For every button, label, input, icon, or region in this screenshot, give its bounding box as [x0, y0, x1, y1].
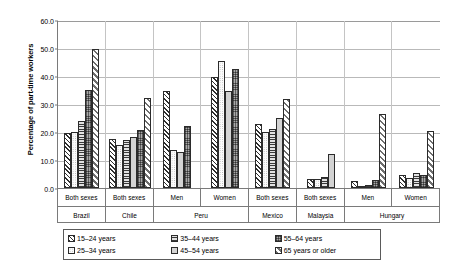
bar — [137, 130, 144, 188]
bar — [130, 137, 137, 188]
bar — [218, 61, 225, 188]
legend-swatch — [68, 247, 75, 254]
bar-group-bars — [64, 21, 99, 188]
legend-label: 15–24 years — [77, 235, 116, 242]
bar — [85, 90, 92, 188]
legend-item: 35–44 years — [171, 232, 272, 244]
bar — [184, 126, 191, 188]
chart-container: Percentage of part-time workers 0.010.02… — [0, 0, 449, 269]
bar-group — [345, 21, 393, 188]
bar — [255, 124, 262, 188]
y-tick-label: 60.0 — [40, 18, 54, 25]
category-label: Women — [201, 189, 249, 206]
legend-swatch — [171, 235, 178, 242]
y-tick-label: 10.0 — [40, 158, 54, 165]
bar — [358, 186, 365, 188]
country-label: Chile — [106, 206, 154, 223]
bar — [379, 114, 386, 188]
bar — [163, 91, 170, 188]
bar-group-bars — [399, 21, 434, 188]
y-tick-label: 0.0 — [44, 186, 54, 193]
bar-group-bars — [109, 21, 151, 188]
bar — [262, 132, 269, 188]
legend-item: 25–34 years — [68, 244, 169, 256]
bar — [314, 179, 321, 188]
bar — [413, 173, 420, 188]
legend-label: 55–64 years — [284, 235, 323, 242]
bar — [92, 49, 99, 188]
legend-label: 65 years or older — [284, 247, 337, 254]
legend-swatch — [171, 247, 178, 254]
legend-swatch — [68, 235, 75, 242]
bar-group-bars — [163, 21, 191, 188]
bar — [321, 177, 328, 188]
bar-groups — [58, 21, 440, 188]
category-label: Both sexes — [57, 189, 106, 206]
legend-item: 15–24 years — [68, 232, 169, 244]
bar — [78, 121, 85, 188]
category-label-row: Both sexesBoth sexesMenWomenBoth sexesBo… — [57, 189, 440, 206]
bar — [328, 154, 335, 188]
bar-group — [392, 21, 440, 188]
bar — [283, 99, 290, 188]
plot-area: 0.010.020.030.040.050.060.0 — [57, 21, 440, 189]
category-label: Both sexes — [297, 189, 345, 206]
bar — [399, 175, 406, 188]
bar-group — [201, 21, 249, 188]
country-label: Brazil — [57, 206, 106, 223]
legend-item: 45–54 years — [171, 244, 272, 256]
category-axis: Both sexesBoth sexesMenWomenBoth sexesBo… — [57, 189, 440, 223]
country-label: Peru — [154, 206, 249, 223]
bar-group-bars — [211, 21, 239, 188]
legend-label: 25–34 years — [77, 247, 116, 254]
category-label: Both sexes — [106, 189, 154, 206]
country-label: Malaysia — [297, 206, 345, 223]
bar — [170, 150, 177, 188]
category-label: Men — [154, 189, 202, 206]
chart-legend: 15–24 years35–44 years55–64 years25–34 y… — [63, 229, 381, 260]
y-tick-label: 40.0 — [40, 74, 54, 81]
bar — [427, 131, 434, 188]
category-label: Men — [345, 189, 393, 206]
bar-group-bars — [307, 21, 335, 188]
legend-label: 35–44 years — [180, 235, 219, 242]
bar-group-bars — [255, 21, 290, 188]
bar — [420, 175, 427, 188]
bar — [307, 179, 314, 188]
bar — [276, 118, 283, 188]
bar-group — [106, 21, 154, 188]
legend-swatch — [275, 247, 282, 254]
category-label: Women — [392, 189, 440, 206]
bar — [406, 178, 413, 188]
bar — [365, 185, 372, 188]
y-tick-label: 30.0 — [40, 102, 54, 109]
bar-group — [58, 21, 106, 188]
bar — [269, 129, 276, 188]
legend-swatch — [275, 235, 282, 242]
bar — [116, 145, 123, 188]
country-label-row: BrazilChilePeruMexicoMalaysiaHungary — [57, 206, 440, 223]
bar — [211, 77, 218, 188]
legend-item: 65 years or older — [275, 244, 376, 256]
y-axis-title: Percentage of part-time workers — [26, 7, 35, 192]
bar — [177, 152, 184, 188]
bar-group — [249, 21, 297, 188]
bar-group-bars — [351, 21, 386, 188]
bar — [232, 69, 239, 188]
legend-item: 55–64 years — [275, 232, 376, 244]
bar — [144, 98, 151, 188]
bar — [123, 140, 130, 188]
country-label: Mexico — [249, 206, 297, 223]
bar-group — [297, 21, 345, 188]
bar — [71, 132, 78, 188]
y-tick-label: 50.0 — [40, 46, 54, 53]
bar — [109, 139, 116, 188]
y-tick-label: 20.0 — [40, 130, 54, 137]
bar — [372, 180, 379, 188]
bar — [351, 181, 358, 188]
country-label: Hungary — [345, 206, 440, 223]
category-label: Both sexes — [249, 189, 297, 206]
bar — [225, 91, 232, 188]
bar — [64, 133, 71, 188]
bar-group — [154, 21, 202, 188]
